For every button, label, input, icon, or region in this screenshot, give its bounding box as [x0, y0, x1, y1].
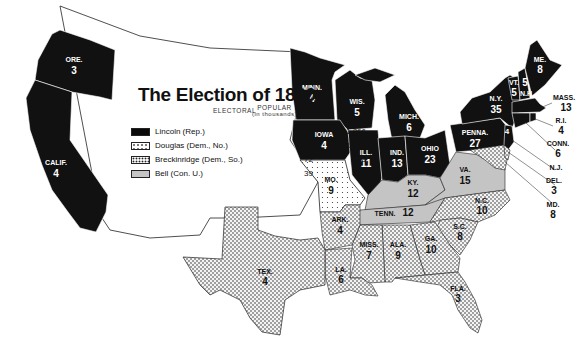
- svg-text:LA.: LA.: [335, 266, 346, 273]
- legend-electoral: 12: [289, 141, 313, 150]
- svg-text:ALA.: ALA.: [390, 241, 406, 248]
- legend-popular: 848: [331, 155, 366, 164]
- svg-text:N.J.: N.J.: [550, 164, 563, 171]
- svg-text:GA.: GA.: [425, 235, 438, 242]
- legend-item-bell: Bell (Con. U.) 39 593: [131, 168, 290, 179]
- svg-text:27: 27: [469, 138, 481, 149]
- svg-text:DEL.: DEL.: [546, 177, 562, 184]
- svg-text:VA.: VA.: [459, 166, 470, 173]
- svg-text:7: 7: [366, 250, 372, 261]
- svg-text:CONN.: CONN.: [547, 140, 570, 147]
- svg-text:ME.: ME.: [534, 56, 547, 63]
- svg-text:TEX.: TEX.: [257, 268, 273, 275]
- legend-popular: 593: [331, 169, 366, 178]
- state-florida: [395, 272, 482, 333]
- svg-text:9: 9: [395, 250, 401, 261]
- legend-popular: 1,383: [331, 141, 366, 150]
- svg-text:MD.: MD.: [547, 201, 560, 208]
- legend-electoral: 39: [289, 169, 313, 178]
- svg-text:9: 9: [328, 185, 334, 196]
- legend-electoral: 72: [289, 155, 313, 164]
- svg-text:10: 10: [476, 205, 488, 216]
- svg-text:3: 3: [71, 65, 77, 76]
- svg-text:5: 5: [511, 87, 517, 98]
- svg-text:R.I.: R.I.: [556, 117, 567, 124]
- svg-text:12: 12: [407, 188, 419, 199]
- svg-text:MICH.: MICH.: [399, 113, 419, 120]
- popular-column-header: POPULAR (in thousands): [252, 104, 297, 118]
- legend-electoral: 180: [289, 127, 313, 136]
- svg-text:3: 3: [551, 185, 557, 196]
- legend-item-douglas: Douglas (Dem., No.) 12 1,383: [131, 140, 290, 151]
- svg-text:8: 8: [457, 231, 463, 242]
- svg-text:WIS.: WIS.: [349, 98, 364, 105]
- svg-text:12: 12: [402, 207, 414, 218]
- svg-text:MASS.: MASS.: [553, 94, 575, 101]
- legend-swatch-dense-dots-icon: [131, 156, 150, 164]
- svg-text:6: 6: [555, 148, 561, 159]
- svg-text:5: 5: [522, 77, 528, 88]
- svg-text:VT.: VT.: [509, 79, 519, 86]
- svg-text:3: 3: [455, 293, 461, 304]
- popular-header-sublabel: (in thousands): [252, 111, 297, 118]
- legend-item-breckinridge: Breckinridge (Dem., So.) 72 848: [131, 154, 290, 165]
- svg-text:8: 8: [537, 64, 543, 75]
- svg-text:35: 35: [490, 104, 502, 115]
- svg-text:IND.: IND.: [390, 149, 404, 156]
- svg-text:10: 10: [425, 244, 437, 255]
- electoral-column-header: ELECTORAL: [213, 107, 256, 114]
- svg-text:OHIO: OHIO: [421, 145, 439, 152]
- svg-text:4: 4: [505, 127, 510, 136]
- svg-text:6: 6: [406, 122, 412, 133]
- svg-text:ORE.: ORE.: [65, 56, 82, 63]
- legend-item-lincoln: Lincoln (Rep.) 180 1,866: [131, 126, 290, 137]
- legend-swatch-solid-icon: [131, 128, 150, 136]
- state-maine: [525, 40, 562, 96]
- svg-text:13: 13: [560, 102, 572, 113]
- svg-text:KY.: KY.: [408, 179, 419, 186]
- svg-text:PENNA.: PENNA.: [462, 129, 489, 136]
- svg-text:N.H.: N.H.: [520, 90, 534, 97]
- svg-text:4: 4: [337, 225, 343, 236]
- legend-label: Lincoln (Rep.): [155, 127, 290, 136]
- svg-text:13: 13: [391, 158, 403, 169]
- election-map: ORE. 3 CALIF. 4 MINN. 4 WIS. 5 MICH. 6 I…: [0, 0, 583, 357]
- legend-swatch-gray-icon: [131, 170, 150, 178]
- svg-text:TENN.: TENN.: [375, 210, 396, 217]
- svg-text:5: 5: [354, 107, 360, 118]
- legend-label: Breckinridge (Dem., So.): [155, 155, 290, 164]
- map-title: The Election of 1860: [138, 84, 316, 106]
- svg-text:4: 4: [262, 276, 268, 287]
- state-rhode-island: [530, 113, 536, 122]
- popular-header-label: POPULAR: [252, 104, 297, 111]
- svg-text:FLA.: FLA.: [450, 285, 466, 292]
- legend-label: Douglas (Dem., No.): [155, 141, 290, 150]
- svg-text:MISS.: MISS.: [359, 241, 378, 248]
- svg-text:15: 15: [459, 175, 471, 186]
- svg-text:23: 23: [424, 154, 436, 165]
- svg-text:4: 4: [53, 168, 59, 179]
- svg-text:4: 4: [558, 125, 564, 136]
- svg-text:S.C.: S.C.: [453, 223, 467, 230]
- svg-text:CALIF.: CALIF.: [45, 159, 67, 166]
- svg-text:ARK.: ARK.: [331, 216, 348, 223]
- legend-label: Bell (Con. U.): [155, 169, 290, 178]
- svg-text:N.Y.: N.Y.: [490, 95, 503, 102]
- svg-text:8: 8: [550, 209, 556, 220]
- legend-popular: 1,866: [331, 127, 366, 136]
- svg-text:6: 6: [338, 274, 344, 285]
- svg-text:4: 4: [321, 140, 327, 151]
- svg-text:N.C.: N.C.: [475, 197, 489, 204]
- legend-swatch-sparse-dots-icon: [131, 142, 150, 150]
- state-connecticut: [512, 113, 530, 128]
